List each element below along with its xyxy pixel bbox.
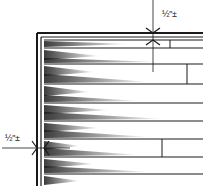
diagram-canvas: [0, 0, 207, 194]
left-gap-label: ½"±: [5, 133, 20, 143]
top-gap-dimension: [146, 0, 160, 72]
top-gap-label: ½"±: [162, 9, 177, 19]
wood-grain: [44, 41, 165, 185]
flooring-detail-diagram: ½"± ½"±: [0, 0, 207, 194]
